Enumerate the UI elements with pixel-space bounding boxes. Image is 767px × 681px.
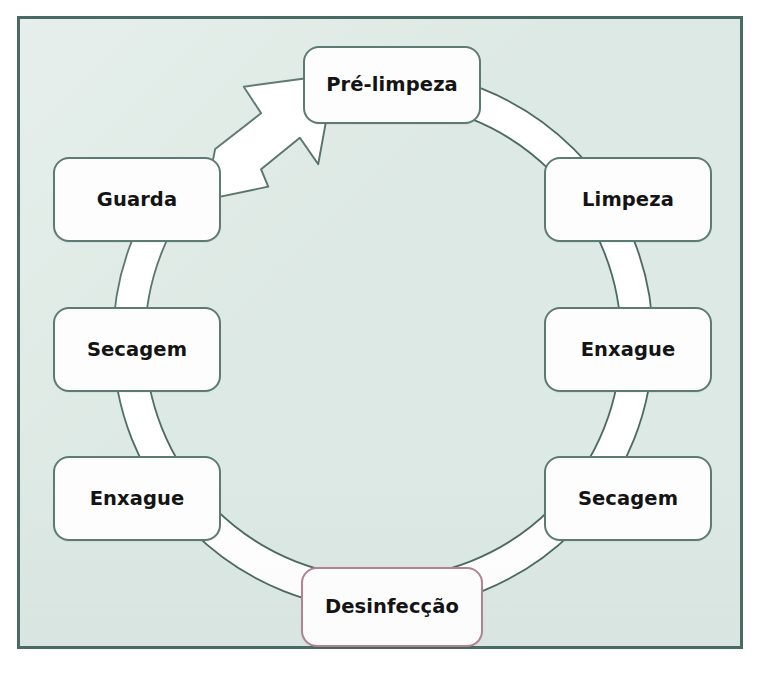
step-label: Limpeza <box>582 190 674 210</box>
step-label: Secagem <box>87 340 187 360</box>
step-box-secagem-1[interactable]: Secagem <box>544 456 712 541</box>
diagram-frame: Pré-limpeza Limpeza Enxague Secagem Desi… <box>17 16 743 649</box>
diagram-screenshot: Pré-limpeza Limpeza Enxague Secagem Desi… <box>0 0 767 681</box>
step-box-pre-limpeza[interactable]: Pré-limpeza <box>303 46 481 124</box>
step-box-desinfeccao[interactable]: Desinfecção <box>301 567 483 647</box>
step-label: Enxague <box>90 489 185 509</box>
step-box-limpeza[interactable]: Limpeza <box>544 157 712 242</box>
step-label: Secagem <box>578 489 678 509</box>
step-label: Desinfecção <box>325 597 459 617</box>
step-label: Guarda <box>97 190 177 210</box>
step-label: Enxague <box>581 340 676 360</box>
step-box-secagem-2[interactable]: Secagem <box>53 307 221 392</box>
step-box-guarda[interactable]: Guarda <box>53 157 221 242</box>
step-box-enxague-1[interactable]: Enxague <box>544 307 712 392</box>
step-label: Pré-limpeza <box>326 75 458 95</box>
step-box-enxague-2[interactable]: Enxague <box>53 456 221 541</box>
